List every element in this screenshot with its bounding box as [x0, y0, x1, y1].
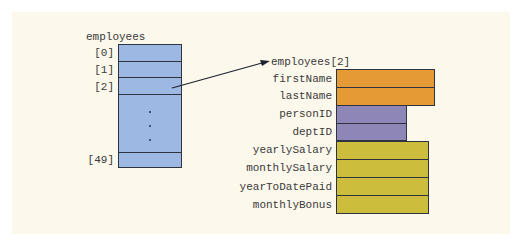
- id-fields-block: [336, 105, 407, 141]
- field-label-firstName: firstName: [230, 73, 332, 85]
- field-monthlySalary: [337, 159, 428, 178]
- field-label-lastName: lastName: [230, 90, 332, 102]
- field-yearToDatePaid: [337, 177, 428, 196]
- field-firstName: [337, 70, 434, 88]
- field-label-deptID: deptID: [230, 126, 332, 138]
- field-label-yearlySalary: yearlySalary: [230, 144, 332, 156]
- field-yearlySalary: [337, 142, 428, 160]
- field-label-monthlyBonus: monthlyBonus: [230, 199, 332, 211]
- field-label-personID: personID: [230, 108, 332, 120]
- name-fields-block: [336, 69, 435, 106]
- field-label-yearToDatePaid: yearToDatePaid: [230, 181, 332, 193]
- pay-fields-block: [336, 141, 429, 214]
- field-label-monthlySalary: monthlySalary: [230, 162, 332, 174]
- struct-title: employees[2]: [271, 56, 350, 68]
- field-personID: [337, 106, 406, 124]
